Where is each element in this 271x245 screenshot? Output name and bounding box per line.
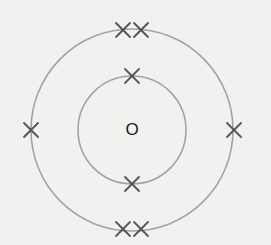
electron-cross-icon bbox=[134, 222, 148, 236]
electron-cross-icon bbox=[116, 222, 130, 236]
oxygen-atom-diagram: O bbox=[0, 0, 271, 245]
electron-cross-icon bbox=[227, 123, 241, 137]
nucleus-label: O bbox=[122, 118, 142, 142]
